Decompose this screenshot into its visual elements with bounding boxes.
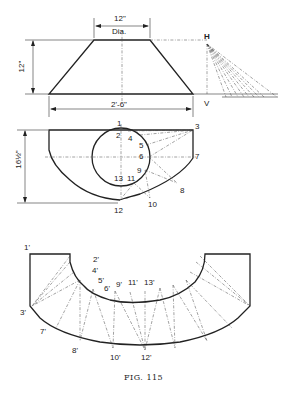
plan-point-6: 6 xyxy=(139,152,143,161)
plan-point-8: 8 xyxy=(180,186,184,195)
top-diameter-sublabel: Dia. xyxy=(112,27,126,36)
dev-point-4: 4' xyxy=(92,266,98,275)
dev-point-8: 8' xyxy=(72,346,78,355)
plan-point-10: 10 xyxy=(148,200,157,209)
plan-point-9: 9 xyxy=(137,166,141,175)
dev-point-7: 7' xyxy=(40,327,46,336)
plan-point-7: 7 xyxy=(195,152,199,161)
dev-point-10: 10' xyxy=(110,353,120,362)
dev-point-1: 1' xyxy=(24,243,30,252)
plan-point-13: 13 xyxy=(114,174,123,183)
point-v-label: V xyxy=(204,99,209,108)
dev-point-2: 2' xyxy=(93,255,99,264)
plan-height-label: 16½" xyxy=(14,150,23,168)
height-dim-label: 12" xyxy=(17,61,26,73)
dev-point-6: 6' xyxy=(104,284,110,293)
plan-point-4: 4 xyxy=(128,134,132,143)
plan-point-2: 2 xyxy=(116,131,120,140)
plan-point-5: 5 xyxy=(139,141,143,150)
top-diameter-label: 12" xyxy=(114,14,126,23)
plan-point-11: 11 xyxy=(127,174,135,183)
plan-point-3: 3 xyxy=(195,122,199,131)
plan-point-1: 1 xyxy=(117,119,121,128)
dev-point-9: 9' xyxy=(116,280,122,289)
dev-point-12: 12' xyxy=(141,353,151,362)
bottom-dim-label: 2'-6" xyxy=(111,100,127,109)
point-h-label: H xyxy=(204,32,210,41)
dev-point-13: 13' xyxy=(144,278,154,287)
dev-point-3: 3' xyxy=(20,308,26,317)
plan-point-12: 12 xyxy=(114,206,123,215)
figure-caption: FIG. 115 xyxy=(124,373,163,382)
dev-point-11: 11' xyxy=(128,278,138,287)
